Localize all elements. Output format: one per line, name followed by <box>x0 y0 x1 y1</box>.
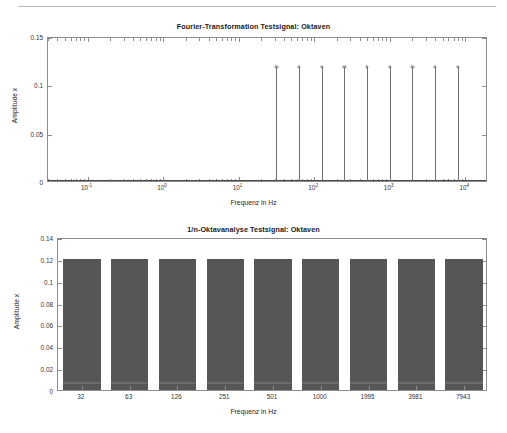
fft-zero-marker <box>86 180 89 181</box>
octave-bar[interactable] <box>159 259 196 390</box>
octave-bar[interactable] <box>398 259 435 390</box>
fft-x-tick <box>448 38 449 41</box>
octave-y-tick-label: 0.08 <box>41 300 53 307</box>
octave-y-tick <box>482 239 486 240</box>
fft-stem-marker <box>343 65 346 68</box>
octave-x-tick-label: 3981 <box>408 393 422 400</box>
fft-zero-marker <box>207 180 210 181</box>
octave-bar[interactable] <box>445 259 482 390</box>
octave-x-tick-label: 32 <box>77 393 84 400</box>
octave-y-tick <box>58 348 62 349</box>
fft-zero-marker <box>56 180 59 181</box>
fft-x-tick <box>378 38 379 41</box>
octave-x-tick-label: 126 <box>171 393 182 400</box>
fft-y-tick <box>482 86 486 87</box>
fft-x-tick <box>76 38 77 41</box>
fft-zero-marker <box>109 180 112 181</box>
octave-y-tick-label: 0.12 <box>41 256 53 263</box>
fft-x-tick <box>390 38 391 42</box>
fft-zero-marker <box>189 180 192 181</box>
octave-y-axis-title: Amplitude x <box>13 282 20 342</box>
octave-bar[interactable] <box>111 259 148 390</box>
fft-x-tick <box>314 38 315 42</box>
header-divider <box>18 6 496 7</box>
octave-bar-band <box>398 382 435 384</box>
fft-x-tick <box>110 38 111 41</box>
octave-x-tick <box>321 386 322 390</box>
fft-x-tick <box>48 38 49 41</box>
octave-y-tick <box>58 305 62 306</box>
octave-x-tick-label: 7943 <box>456 393 470 400</box>
octave-x-tick <box>225 386 226 390</box>
fft-stem-line <box>276 67 277 181</box>
octave-x-tick <box>130 386 131 390</box>
fft-x-tick <box>307 38 308 41</box>
octave-bar[interactable] <box>350 259 387 390</box>
octave-bar-band <box>445 382 482 384</box>
fft-stem-marker <box>320 65 323 68</box>
fft-zero-marker <box>124 180 127 181</box>
fft-x-tick <box>133 38 134 41</box>
fft-stem-line <box>435 67 436 181</box>
fft-stem-line <box>299 67 300 181</box>
octave-y-tick-label: 0.14 <box>41 235 53 242</box>
octave-bar[interactable] <box>254 259 291 390</box>
fft-stem-line <box>458 67 459 181</box>
fft-zero-marker <box>139 180 142 181</box>
fft-zero-marker <box>78 180 81 181</box>
octave-x-tick <box>464 386 465 390</box>
fft-y-tick-label: 0.05 <box>31 130 43 137</box>
fft-x-tick <box>311 38 312 41</box>
fft-x-tick <box>426 38 427 41</box>
octave-bar-band <box>63 382 100 384</box>
octave-y-tick <box>58 370 62 371</box>
fft-y-tick <box>482 135 486 136</box>
octave-bar[interactable] <box>302 259 339 390</box>
fft-x-tick <box>284 38 285 41</box>
octave-analysis-chart: 1/n-Oktavanalyse Testsignal: Oktaven 00.… <box>0 220 507 426</box>
octave-bar[interactable] <box>207 259 244 390</box>
octave-y-tick <box>58 261 62 262</box>
fft-chart-title: Fourier-Transformation Testsignal: Oktav… <box>0 22 507 31</box>
fft-x-tick <box>227 38 228 41</box>
octave-plot-area <box>57 238 487 391</box>
octave-x-tick-labels: 32631262515011000199539817943 <box>57 393 487 407</box>
fft-zero-marker <box>193 180 196 181</box>
fft-zero-marker <box>174 180 177 181</box>
octave-y-tick <box>58 283 62 284</box>
octave-bar-band <box>159 382 196 384</box>
fft-x-tick <box>465 38 466 42</box>
fft-x-tick <box>367 38 368 41</box>
fft-x-tick <box>151 38 152 41</box>
fft-x-axis-title: Frequenz in Hz <box>0 199 507 206</box>
octave-x-tick-label: 251 <box>219 393 230 400</box>
fft-x-tick <box>146 38 147 41</box>
fft-zero-marker <box>170 180 173 181</box>
fft-stem-line <box>344 67 345 181</box>
fft-y-tick-labels: 00.050.10.15 <box>3 37 43 182</box>
fft-zero-marker <box>94 180 97 181</box>
fft-x-tick <box>386 38 387 41</box>
octave-bar[interactable] <box>63 259 100 390</box>
fft-x-tick <box>156 38 157 41</box>
fft-x-tick <box>462 38 463 41</box>
fft-stem-marker <box>388 65 391 68</box>
fft-y-axis-title: Amplitude x <box>11 76 18 136</box>
fft-x-tick <box>80 38 81 41</box>
fft-stem-marker <box>365 65 368 68</box>
fft-stem-marker <box>297 65 300 68</box>
fft-y-tick-label: 0 <box>39 179 43 186</box>
octave-bar-band <box>302 382 339 384</box>
fft-x-tick <box>297 38 298 41</box>
fft-x-tick <box>291 38 292 41</box>
fft-x-tick <box>412 38 413 41</box>
fft-zero-marker <box>198 180 201 181</box>
fft-x-tick <box>186 38 187 41</box>
fft-y-tick <box>48 86 52 87</box>
fft-zero-marker <box>177 180 180 181</box>
fft-zero-marker <box>101 180 104 181</box>
fft-stem-line <box>322 67 323 181</box>
fft-y-tick <box>482 38 486 39</box>
fft-zero-marker <box>147 180 150 181</box>
fft-x-tick-label: 100 <box>157 184 167 191</box>
